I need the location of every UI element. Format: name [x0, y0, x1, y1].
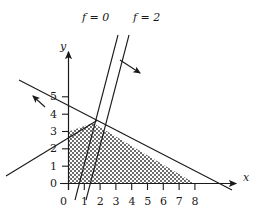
objective-label-f0: f = 0 — [82, 12, 109, 23]
y-tick-label-0: 0 — [50, 178, 57, 189]
x-tick-label-2: 2 — [97, 196, 104, 207]
x-tick-label-5: 5 — [144, 196, 151, 207]
y-tick-label-2: 2 — [50, 143, 57, 154]
y-axis-label: y — [60, 41, 66, 52]
objective-label-f2: f = 2 — [133, 12, 160, 23]
x-axis-label: x — [243, 172, 249, 183]
arrow-upper-constraint-icon — [33, 96, 45, 107]
x-tick-label-7: 7 — [176, 196, 183, 207]
x-tick-label-8: 8 — [192, 196, 199, 207]
arrow-objective-direction-icon — [120, 60, 140, 73]
x-tick-label-3: 3 — [113, 196, 120, 207]
y-tick-label-4: 4 — [50, 109, 57, 120]
x-tick-label-1: 1 — [81, 196, 88, 207]
x-axis — [60, 184, 236, 191]
y-tick-label-3: 3 — [50, 126, 57, 137]
y-axis — [62, 52, 69, 190]
x-tick-label-0: 0 — [60, 196, 67, 207]
x-tick-label-4: 4 — [128, 196, 135, 207]
plot-canvas — [0, 0, 263, 224]
y-tick-label-1: 1 — [50, 161, 57, 172]
x-tick-label-6: 6 — [160, 196, 167, 207]
linear-programming-figure: y x f = 0 f = 2 0 1 2 3 4 5 0 1 2 3 4 5 … — [0, 0, 263, 224]
y-tick-label-5: 5 — [50, 91, 57, 102]
